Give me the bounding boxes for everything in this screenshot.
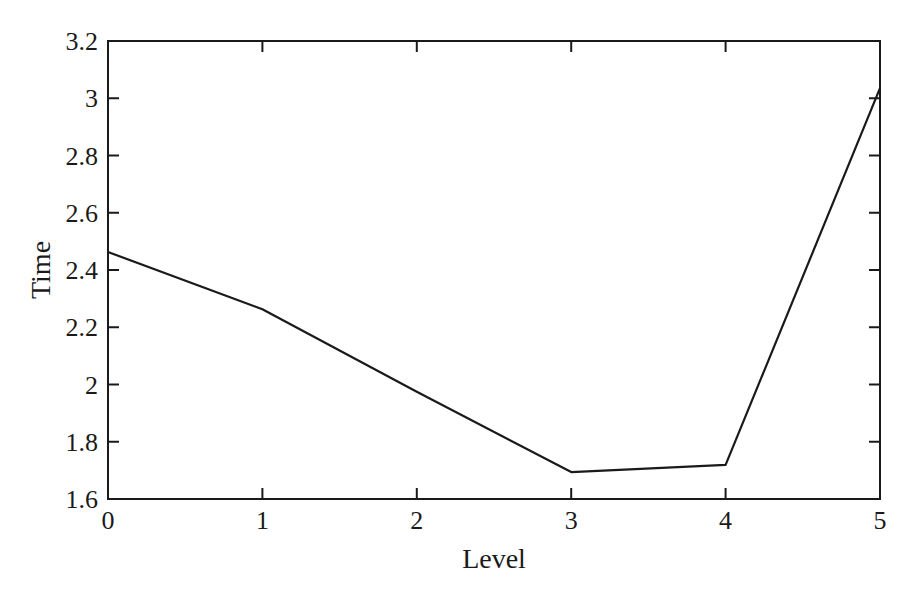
line-chart: 1.61.822.22.42.62.833.2 012345 Level Tim… [0,0,910,597]
x-tick-label: 2 [410,506,423,535]
x-tick-label: 1 [256,506,269,535]
x-tick-label: 5 [874,506,887,535]
x-tick-label: 0 [102,506,115,535]
y-tick-label: 2.4 [66,256,99,285]
y-tick-label: 3.2 [66,27,99,56]
x-axis-ticks: 012345 [102,41,887,535]
y-tick-label: 1.8 [66,428,99,457]
x-tick-label: 3 [565,506,578,535]
y-tick-label: 2.8 [66,142,99,171]
y-tick-label: 2.2 [66,313,99,342]
y-axis-ticks: 1.61.822.22.42.62.833.2 [66,27,881,514]
y-tick-label: 2 [85,371,98,400]
y-axis-title: Time [25,241,56,299]
x-tick-label: 4 [719,506,732,535]
series-line-time [108,88,880,472]
plot-frame [108,41,880,499]
x-axis-title: Level [462,543,526,574]
y-tick-label: 1.6 [66,485,99,514]
y-tick-label: 3 [85,84,98,113]
y-tick-label: 2.6 [66,199,99,228]
